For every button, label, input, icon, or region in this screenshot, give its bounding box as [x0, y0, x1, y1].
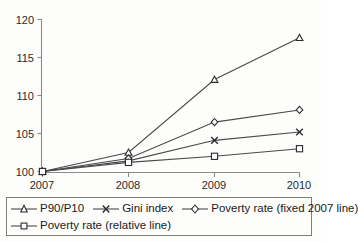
triangle-marker-icon — [11, 203, 37, 215]
data-point-marker — [211, 119, 218, 126]
legend-row: P90/P10 Gini index Poverty rate (fixed 2… — [11, 200, 308, 217]
y-tick-label: 105 — [16, 128, 34, 140]
square-marker-icon — [11, 220, 37, 232]
y-tick-label: 115 — [16, 52, 34, 64]
legend-entry-poverty-rate-fixed[interactable]: Poverty rate (fixed 2007 line) — [182, 202, 358, 215]
x-tick-label: 2007 — [30, 179, 54, 191]
y-tick-label: 120 — [16, 14, 34, 26]
legend-label: Poverty rate (fixed 2007 line) — [211, 202, 358, 215]
series-triangle — [39, 34, 303, 174]
x-tick-label: 2010 — [287, 179, 311, 191]
data-point-marker — [125, 159, 131, 165]
legend-entry-gini-index[interactable]: Gini index — [93, 202, 173, 215]
legend-row: Poverty rate (relative line) — [11, 217, 308, 234]
data-point-marker — [296, 146, 302, 152]
data-point-marker — [211, 153, 217, 159]
x-marker-icon — [93, 203, 119, 215]
series-line — [43, 149, 300, 172]
legend-entry-poverty-rate-relative[interactable]: Poverty rate (relative line) — [11, 219, 171, 232]
data-point-marker — [296, 106, 303, 113]
series-line — [43, 38, 300, 172]
y-axis-tick-labels: 120 115 110 105 100 — [16, 14, 34, 178]
y-axis-ticks — [38, 20, 42, 172]
series-line — [43, 110, 300, 172]
diamond-marker-icon — [182, 203, 208, 215]
line-chart-svg: 120 115 110 105 100 2007 2008 2009 2010 — [0, 0, 321, 196]
legend-label: Gini index — [122, 202, 173, 215]
y-tick-label: 100 — [16, 166, 34, 178]
legend-label: P90/P10 — [40, 202, 84, 215]
data-point-marker — [39, 168, 45, 174]
x-tick-label: 2009 — [202, 179, 226, 191]
data-point-marker — [296, 34, 303, 40]
x-axis-tick-labels: 2007 2008 2009 2010 — [30, 179, 311, 191]
chart-legend: P90/P10 Gini index Poverty rate (fixed 2… — [6, 197, 312, 236]
chart-plot-area: 120 115 110 105 100 2007 2008 2009 2010 — [0, 0, 321, 196]
series-layer — [39, 34, 303, 175]
x-tick-label: 2008 — [116, 179, 140, 191]
data-point-marker — [211, 76, 218, 82]
x-axis-ticks — [43, 173, 300, 178]
legend-entry-p90p10[interactable]: P90/P10 — [11, 202, 84, 215]
y-tick-label: 110 — [16, 90, 34, 102]
series-square — [39, 146, 302, 175]
legend-label: Poverty rate (relative line) — [40, 219, 171, 232]
